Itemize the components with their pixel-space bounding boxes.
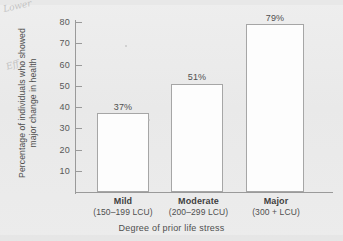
x-category-major-name: Major: [238, 196, 314, 207]
x-category-mild-name: Mild: [83, 196, 163, 207]
y-tick-label-30: 30: [48, 123, 70, 133]
x-category-moderate-range: (200–299 LCU): [156, 207, 241, 218]
y-tick-label-10: 10: [48, 166, 70, 176]
y-tick-40: [75, 107, 82, 108]
bar-value-mild: 37%: [97, 102, 149, 112]
x-category-mild-range: (150–199 LCU): [83, 207, 163, 218]
y-tick-label-80: 80: [48, 17, 70, 27]
x-category-mild: Mild (150–199 LCU): [83, 196, 163, 218]
y-tick-10: [75, 171, 82, 172]
y-tick-label-50: 50: [48, 81, 70, 91]
bar-major: [246, 24, 304, 192]
x-axis-title: Degree of prior life stress: [0, 223, 343, 233]
x-axis-line: [75, 192, 333, 193]
y-axis-title-line2: major change in health: [28, 18, 39, 188]
bar-mild: [97, 113, 149, 192]
y-tick-label-70: 70: [48, 38, 70, 48]
y-tick-60: [75, 65, 82, 66]
y-tick-30: [75, 128, 82, 129]
bar-chart-figure: Lower Eff 80 70 60 50 40 30 20 10 37% 51…: [0, 0, 343, 241]
scan-speck: [125, 45, 127, 47]
y-tick-70: [75, 43, 82, 44]
y-tick-label-40: 40: [48, 102, 70, 112]
page-edge-top: [0, 0, 343, 5]
scan-speck: [148, 119, 150, 121]
x-category-major-range: (300 + LCU): [238, 207, 314, 218]
x-category-moderate-name: Moderate: [156, 196, 241, 207]
y-tick-20: [75, 150, 82, 151]
y-tick-80: [75, 22, 82, 23]
bar-moderate: [171, 84, 223, 192]
x-category-major: Major (300 + LCU): [238, 196, 314, 218]
page-edge-bottom: [0, 235, 343, 241]
y-tick-50: [75, 86, 82, 87]
y-axis-title-line1: Percentage of individuals who showed: [17, 18, 28, 188]
y-tick-label-60: 60: [48, 60, 70, 70]
y-tick-label-20: 20: [48, 145, 70, 155]
bar-value-major: 79%: [246, 13, 304, 23]
y-axis-title: Percentage of individuals who showed maj…: [17, 18, 39, 188]
bar-value-moderate: 51%: [171, 72, 223, 82]
x-category-moderate: Moderate (200–299 LCU): [156, 196, 241, 218]
